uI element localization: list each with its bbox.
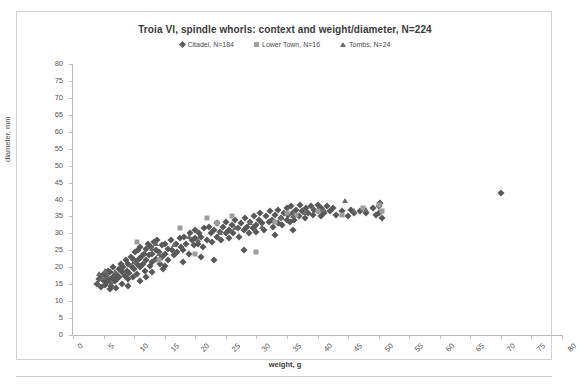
- data-point: [177, 226, 182, 231]
- y-axis-label: 55: [37, 145, 63, 153]
- y-axis-label: 30: [37, 229, 63, 237]
- data-point: [332, 211, 339, 218]
- data-point: [205, 216, 210, 221]
- x-axis-tick: [531, 335, 532, 339]
- y-axis-label: 0: [37, 331, 63, 339]
- x-axis-label: 25: [230, 342, 241, 353]
- y-axis-label: 40: [37, 196, 63, 204]
- legend-item-triangle[interactable]: Tombs, N=24: [340, 41, 390, 48]
- data-point: [179, 259, 186, 266]
- data-point: [290, 226, 297, 233]
- y-axis-tick: [69, 64, 73, 65]
- x-axis-tick: [165, 335, 166, 339]
- x-axis-label: 30: [261, 342, 272, 353]
- y-axis-label: 60: [37, 128, 63, 136]
- legend-label: Citadel, N=184: [188, 41, 235, 48]
- data-point: [217, 230, 223, 235]
- x-axis-tick: [226, 335, 227, 339]
- data-point: [241, 247, 248, 254]
- legend-label: Tombs, N=24: [349, 41, 390, 48]
- x-axis-tick: [409, 335, 410, 339]
- data-point: [278, 215, 284, 220]
- data-point: [271, 232, 278, 239]
- data-point: [342, 198, 348, 203]
- data-point: [156, 258, 161, 263]
- data-point: [198, 254, 205, 261]
- y-axis-title: diameter, mm: [3, 117, 12, 162]
- legend-item-diamond[interactable]: Citadel, N=184: [180, 41, 235, 48]
- y-axis-tick: [69, 267, 73, 268]
- data-point: [229, 214, 234, 219]
- y-axis-label: 15: [37, 280, 63, 288]
- data-point: [272, 219, 277, 224]
- data-point: [284, 211, 289, 216]
- x-axis-label: 0: [76, 342, 84, 350]
- y-axis-tick: [69, 284, 73, 285]
- x-axis-tick: [134, 335, 135, 339]
- data-point: [217, 237, 224, 244]
- y-axis-tick: [69, 233, 73, 234]
- data-point: [351, 208, 357, 213]
- data-point: [321, 207, 327, 212]
- x-axis-label: 50: [383, 342, 394, 353]
- x-axis-tick: [440, 335, 441, 339]
- x-axis-title: weight, g: [17, 360, 553, 369]
- data-point: [112, 269, 118, 274]
- data-point: [315, 209, 320, 214]
- data-point: [290, 213, 296, 218]
- y-axis-tick: [69, 149, 73, 150]
- data-point: [253, 228, 260, 235]
- triangle-marker-icon: [340, 42, 346, 47]
- data-point: [135, 239, 140, 244]
- y-axis-tick: [69, 183, 73, 184]
- data-point: [195, 237, 201, 242]
- data-point: [108, 279, 114, 284]
- data-point: [232, 225, 238, 230]
- chart-title: Troia VI, spindle whorls: context and we…: [17, 24, 553, 35]
- x-axis-label: 60: [444, 342, 455, 353]
- data-point: [186, 250, 193, 257]
- y-axis-tick: [69, 81, 73, 82]
- y-axis-label: 75: [37, 77, 63, 85]
- data-point: [171, 242, 177, 247]
- data-point: [247, 220, 253, 225]
- data-point: [99, 275, 105, 280]
- data-point: [143, 274, 150, 281]
- x-axis-label: 20: [200, 342, 211, 353]
- x-axis-label: 70: [505, 342, 516, 353]
- x-axis-tick: [348, 335, 349, 339]
- data-point: [497, 189, 504, 196]
- data-point: [214, 221, 219, 226]
- x-axis-label: 10: [139, 342, 150, 353]
- data-point: [259, 224, 265, 229]
- legend-label: Lower Town, N=16: [262, 41, 320, 48]
- y-axis-tick: [69, 115, 73, 116]
- data-point: [363, 207, 369, 212]
- y-axis-tick: [69, 200, 73, 201]
- x-axis-label: 80: [566, 342, 577, 353]
- data-point: [254, 250, 259, 255]
- y-axis-label: 65: [37, 111, 63, 119]
- y-axis-tick: [69, 166, 73, 167]
- data-point: [149, 269, 156, 276]
- data-point: [339, 212, 344, 217]
- y-axis-label: 80: [37, 60, 63, 68]
- y-axis-tick: [69, 318, 73, 319]
- x-axis-tick: [470, 335, 471, 339]
- chart-legend: Citadel, N=184Lower Town, N=16Tombs, N=2…: [17, 41, 553, 48]
- data-point: [193, 251, 198, 256]
- y-axis-tick: [69, 216, 73, 217]
- x-axis-tick: [562, 335, 563, 339]
- x-axis-label: 15: [169, 342, 180, 353]
- y-axis-label: 5: [37, 314, 63, 322]
- data-point: [378, 215, 385, 222]
- legend-item-square[interactable]: Lower Town, N=16: [254, 41, 320, 48]
- x-axis-tick: [287, 335, 288, 339]
- y-axis-label: 70: [37, 94, 63, 102]
- data-point: [153, 241, 159, 246]
- y-axis-label: 20: [37, 263, 63, 271]
- data-point: [379, 209, 384, 214]
- x-axis-label: 75: [536, 342, 547, 353]
- plot-area: [73, 64, 562, 335]
